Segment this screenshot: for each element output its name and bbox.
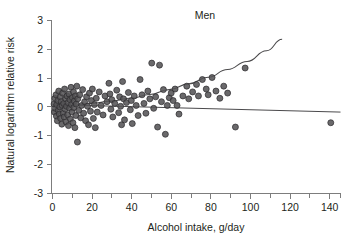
data-point [120,79,126,85]
x-axis-ticks [53,194,341,200]
data-point [129,121,135,127]
y-axis-title: Natural logarithm relative risk [4,36,16,173]
data-point [94,109,100,115]
x-tick-label: 40 [126,201,138,213]
y-tick-label: 0 [37,101,43,113]
data-point [205,92,211,98]
y-tick-label: 2 [37,43,43,55]
data-point [122,117,128,123]
data-point [242,65,248,71]
data-point [135,113,141,119]
data-point [217,95,223,101]
data-point [96,89,102,95]
data-point [62,86,68,92]
data-point [133,102,139,108]
data-point [87,108,93,114]
data-point [112,100,118,106]
data-point [145,88,151,94]
y-tick-label: -3 [34,187,43,199]
x-axis-tick-labels: 0 20 40 60 80 100 120 140 [50,201,339,213]
x-tick-label: 100 [242,201,260,213]
data-point [194,81,200,87]
data-point [106,80,112,86]
data-point [114,87,120,93]
data-point [328,120,334,126]
data-point [174,102,180,108]
data-point [137,77,143,83]
data-point [80,87,86,93]
data-point [143,110,149,116]
data-point [157,62,163,68]
y-tick-label: -2 [34,158,43,170]
data-point [184,83,190,89]
x-tick-label: 60 [165,201,177,213]
x-tick-label: 140 [321,201,339,213]
x-tick-label: 20 [86,201,98,213]
data-point [90,115,96,121]
data-point [158,99,164,105]
x-axis-title: Alcohol intake, g/day [148,221,246,233]
data-point [107,91,113,97]
data-point [86,122,92,128]
data-point [203,86,209,92]
data-point [92,125,98,131]
data-point [100,112,106,118]
data-point [89,86,95,92]
data-point [199,77,205,83]
data-point [141,100,147,106]
data-point [180,93,186,99]
data-point [160,87,166,93]
data-point [147,96,153,102]
scatter-markers [51,60,334,145]
scatter-plot: Natural logarithm relative risk Men 3 2 … [0,0,352,239]
x-tick-label: 0 [50,201,56,213]
data-point [225,90,231,96]
data-point [127,107,133,113]
data-point [221,83,227,89]
y-axis-ticks: 3 2 1 0 -1 -2 -3 [34,14,52,199]
data-point [116,110,122,116]
data-point [131,93,137,99]
data-point [190,89,196,95]
data-point [74,83,80,89]
data-point [151,105,157,111]
data-point [108,106,114,112]
y-tick-label: 1 [37,72,43,84]
chart-figure: Natural logarithm relative risk Men 3 2 … [0,0,352,239]
data-point [209,75,215,81]
data-point [118,103,124,109]
plot-title: Men [195,9,216,21]
data-point [74,139,80,145]
x-tick-label: 80 [205,201,217,213]
data-point [98,102,104,108]
x-tick-label: 120 [281,201,299,213]
data-point [93,95,99,101]
data-point [162,131,168,137]
data-point [91,102,97,108]
data-point [139,92,145,98]
data-point [149,60,155,66]
y-tick-label: 3 [37,14,43,26]
data-point [81,110,87,116]
data-point [155,124,161,130]
data-point [213,88,219,94]
data-point [72,125,78,131]
data-point [110,114,116,120]
data-point [186,96,192,102]
data-point [125,90,131,96]
data-point [195,93,201,99]
data-point [164,102,170,108]
data-point [172,86,178,92]
data-point [176,111,182,117]
y-tick-label: -1 [34,129,43,141]
data-point [153,94,159,100]
data-point [232,124,238,130]
